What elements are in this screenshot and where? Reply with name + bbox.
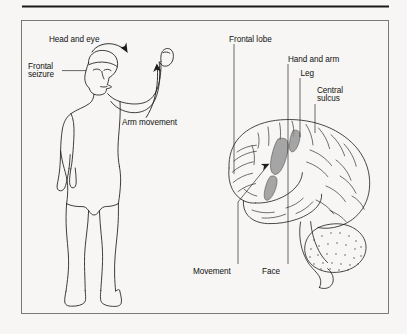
figure-root: Head and eye Frontal seizure Arm movemen… (0, 0, 407, 334)
label-movement: Movement (193, 267, 232, 276)
page-background (0, 0, 407, 334)
figure-canvas: Head and eye Frontal seizure Arm movemen… (0, 0, 407, 334)
label-hand-and-arm: Hand and arm (288, 55, 340, 64)
label-frontal-seizure-line2: seizure (28, 70, 55, 79)
label-frontal-seizure-line1: Frontal (28, 62, 53, 71)
label-head-and-eye: Head and eye (49, 35, 100, 44)
label-arm-movement: Arm movement (122, 118, 178, 127)
label-face: Face (262, 267, 280, 276)
label-central-sulcus-line1: Central (317, 86, 343, 95)
label-central-sulcus-line2: sulcus (317, 94, 340, 103)
label-leg: Leg (301, 69, 315, 78)
label-frontal-lobe: Frontal lobe (229, 35, 272, 44)
